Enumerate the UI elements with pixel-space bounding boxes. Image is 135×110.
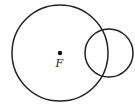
center-point: [58, 51, 62, 55]
diagram-canvas: F: [0, 0, 135, 110]
small-circle: [85, 29, 133, 77]
point-label-f: F: [55, 57, 64, 70]
